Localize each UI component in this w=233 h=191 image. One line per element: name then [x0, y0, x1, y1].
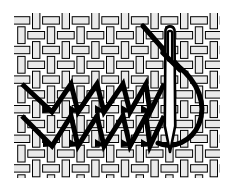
warp-thread-segment: [33, 71, 40, 88]
weft-thread-segment: [28, 150, 45, 157]
warp-thread-segment: [181, 160, 188, 177]
warp-thread-segment: [210, 130, 217, 147]
weft-thread-segment: [28, 32, 45, 39]
warp-thread-segment: [210, 42, 217, 59]
weft-thread-segment: [191, 106, 208, 113]
warp-thread-segment: [107, 27, 114, 44]
warp-thread-segment: [18, 145, 25, 162]
weft-thread-segment: [13, 106, 30, 113]
weft-thread-segment: [205, 91, 222, 98]
weft-thread-segment: [205, 150, 222, 157]
warp-thread-segment: [151, 71, 158, 88]
warp-thread-segment: [136, 27, 143, 44]
warp-thread-segment: [181, 42, 188, 59]
weft-thread-segment: [205, 32, 222, 39]
warp-thread-segment: [33, 160, 40, 177]
weft-thread-segment: [102, 165, 119, 172]
warp-thread-segment: [121, 12, 128, 29]
warp-thread-segment: [47, 86, 54, 103]
weft-thread-segment: [28, 61, 45, 68]
weft-thread-segment: [87, 150, 104, 157]
weft-thread-segment: [205, 61, 222, 68]
warp-thread-segment: [62, 101, 69, 118]
warp-thread-segment: [210, 71, 217, 88]
warp-thread-segment: [77, 27, 84, 44]
warp-thread-segment: [77, 116, 84, 133]
weft-thread-segment: [102, 17, 119, 24]
warp-thread-segment: [62, 160, 69, 177]
weft-thread-segment: [102, 46, 119, 53]
warp-thread-segment: [33, 12, 40, 29]
weft-thread-segment: [57, 32, 74, 39]
warp-thread-segment: [92, 42, 99, 59]
weft-thread-segment: [72, 165, 89, 172]
weft-thread-segment: [117, 150, 134, 157]
warp-thread-segment: [107, 145, 114, 162]
weft-thread-segment: [13, 46, 30, 53]
weft-thread-segment: [146, 61, 163, 68]
weft-thread-segment: [191, 46, 208, 53]
weft-thread-segment: [13, 165, 30, 172]
weft-thread-segment: [161, 17, 178, 24]
warp-thread-segment: [18, 27, 25, 44]
warp-thread-segment: [210, 12, 217, 29]
weft-thread-segment: [13, 76, 30, 83]
weft-thread-segment: [205, 120, 222, 127]
warp-thread-segment: [92, 160, 99, 177]
weft-thread-segment: [43, 17, 60, 24]
weft-thread-segment: [87, 32, 104, 39]
weft-thread-segment: [43, 46, 60, 53]
weft-thread-segment: [176, 91, 193, 98]
stitch-illustration: Herringbone stitch worked on woven fabri…: [0, 0, 233, 191]
warp-thread-segment: [136, 56, 143, 73]
weft-thread-segment: [161, 165, 178, 172]
warp-thread-segment: [47, 27, 54, 44]
warp-thread-segment: [92, 12, 99, 29]
weft-thread-segment: [13, 135, 30, 142]
warp-thread-segment: [33, 42, 40, 59]
warp-thread-segment: [121, 160, 128, 177]
weft-thread-segment: [87, 61, 104, 68]
weft-thread-segment: [72, 46, 89, 53]
warp-thread-segment: [181, 12, 188, 29]
weft-thread-segment: [176, 32, 193, 39]
warp-thread-segment: [121, 42, 128, 59]
warp-thread-segment: [33, 101, 40, 118]
warp-thread-segment: [151, 12, 158, 29]
weft-thread-segment: [131, 17, 148, 24]
weft-thread-segment: [191, 17, 208, 24]
warp-thread-segment: [210, 101, 217, 118]
warp-thread-segment: [47, 116, 54, 133]
weft-thread-segment: [13, 17, 30, 24]
weft-thread-segment: [176, 120, 193, 127]
weft-thread-segment: [57, 61, 74, 68]
warp-thread-segment: [136, 145, 143, 162]
warp-thread-segment: [107, 56, 114, 73]
weft-thread-segment: [117, 32, 134, 39]
warp-thread-segment: [195, 145, 202, 162]
weft-thread-segment: [43, 76, 60, 83]
warp-thread-segment: [195, 56, 202, 73]
warp-thread-segment: [18, 56, 25, 73]
weft-thread-segment: [72, 76, 89, 83]
sewing-needle: [165, 26, 175, 152]
warp-thread-segment: [77, 56, 84, 73]
warp-thread-segment: [151, 160, 158, 177]
warp-thread-segment: [195, 27, 202, 44]
weft-thread-segment: [117, 61, 134, 68]
weft-thread-segment: [72, 17, 89, 24]
weft-thread-segment: [102, 76, 119, 83]
weft-thread-segment: [57, 150, 74, 157]
warp-thread-segment: [210, 160, 217, 177]
weft-thread-segment: [131, 46, 148, 53]
warp-thread-segment: [62, 12, 69, 29]
warp-thread-segment: [181, 101, 188, 118]
warp-thread-segment: [62, 42, 69, 59]
weft-thread-segment: [191, 165, 208, 172]
weft-thread-segment: [176, 150, 193, 157]
warp-thread-segment: [47, 56, 54, 73]
weft-thread-segment: [131, 165, 148, 172]
weft-thread-segment: [43, 165, 60, 172]
illustration-canvas: [0, 0, 233, 191]
